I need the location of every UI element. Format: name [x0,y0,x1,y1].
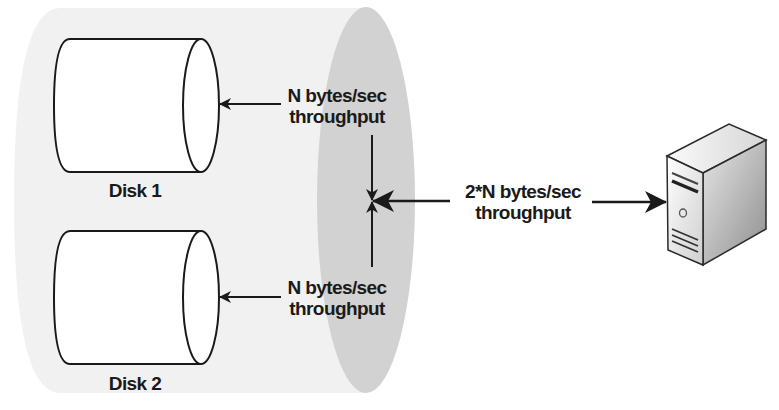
disk-1-throughput-line2: throughput [289,106,386,127]
disk-1-cylinder-end [183,39,219,172]
diagram-canvas: Disk 1 Disk 2 N bytes/sec throughput N b… [0,0,779,410]
disk-1-label: Disk 1 [109,180,162,201]
disk-2-throughput-line1: N bytes/sec [287,277,387,298]
disk-1-throughput-line1: N bytes/sec [287,85,387,106]
disk-2-cylinder-end [183,231,219,364]
combined-throughput-line1: 2*N bytes/sec [465,181,582,202]
disk-1-cylinder-body [54,39,201,172]
server-tower-icon [667,124,766,265]
combined-throughput-line2: throughput [475,202,572,223]
disk-2-cylinder-body [54,231,201,364]
disk-2-label: Disk 2 [109,373,161,394]
disk-2-throughput-line2: throughput [289,298,386,319]
